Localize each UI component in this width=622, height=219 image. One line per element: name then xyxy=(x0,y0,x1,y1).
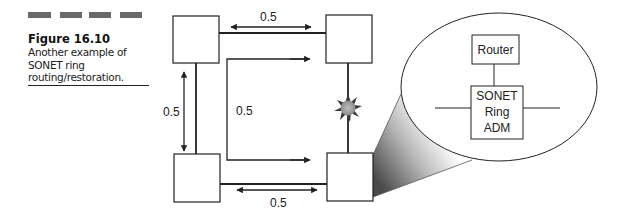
failure-burst-icon xyxy=(334,94,362,122)
router-label: Router xyxy=(477,43,513,57)
node-top-left xyxy=(173,16,219,63)
adm-label-line-2: Ring xyxy=(485,105,510,119)
node-bottom-right xyxy=(327,153,373,201)
label-top-capacity: 0.5 xyxy=(260,10,277,24)
label-reroute-capacity: 0.5 xyxy=(236,104,253,118)
sonet-ring-diagram: 0.5 0.5 0.5 0.5 Router SONET Ring ADM xyxy=(0,0,622,219)
label-left-capacity: 0.5 xyxy=(163,105,180,119)
node-bottom-left xyxy=(174,154,220,202)
label-bottom-capacity: 0.5 xyxy=(270,196,287,210)
adm-label-line-1: SONET xyxy=(476,89,518,103)
node-top-right xyxy=(326,15,372,63)
adm-label-line-3: ADM xyxy=(484,121,511,135)
